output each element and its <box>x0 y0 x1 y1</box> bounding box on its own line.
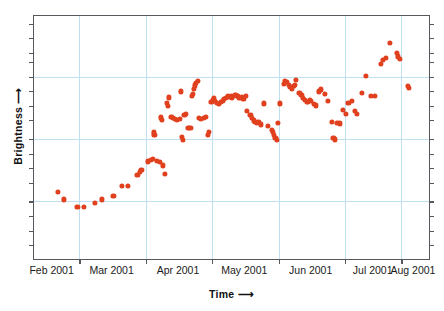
data-point <box>332 137 337 142</box>
y-axis-tick-right <box>429 24 434 25</box>
data-point <box>119 184 124 189</box>
x-axis-label: Time ⟶ <box>33 288 430 300</box>
gridline-vertical <box>401 16 402 259</box>
y-axis-tick <box>29 62 34 63</box>
data-point <box>125 183 130 188</box>
y-axis-tick-right <box>429 216 434 217</box>
x-axis-tick-label: Aug 2001 <box>391 264 436 276</box>
data-point <box>178 89 183 94</box>
data-point <box>276 120 281 125</box>
data-point <box>177 116 182 121</box>
data-point <box>81 204 86 209</box>
y-axis-tick-right <box>429 53 434 54</box>
data-point <box>294 77 299 82</box>
y-axis-tick <box>29 216 34 217</box>
gridline-vertical <box>146 16 147 259</box>
y-axis-tick <box>29 183 34 184</box>
y-axis-tick <box>29 120 34 121</box>
y-axis-tick <box>29 38 34 39</box>
x-axis-tick-label: Mar 2001 <box>89 264 133 276</box>
data-point <box>243 94 248 99</box>
data-point <box>293 82 298 87</box>
x-axis-tick-label: Feb 2001 <box>29 264 73 276</box>
data-point <box>159 117 164 122</box>
gridline-horizontal <box>34 77 429 78</box>
data-point <box>313 103 318 108</box>
x-axis-tick-label: Apr 2001 <box>157 264 200 276</box>
data-point <box>183 111 188 116</box>
data-point <box>160 163 165 168</box>
gridline-vertical <box>279 16 280 259</box>
x-axis-tick-label: May 2001 <box>221 264 267 276</box>
y-axis-tick <box>29 77 34 78</box>
data-point <box>349 98 354 103</box>
y-axis-tick-right <box>429 245 434 246</box>
y-axis-tick-right <box>429 183 434 184</box>
data-point <box>195 79 200 84</box>
y-axis-tick <box>29 231 34 232</box>
y-axis-tick <box>29 106 34 107</box>
y-axis-tick <box>29 245 34 246</box>
data-point <box>165 103 170 108</box>
x-axis-tick-labels: Feb 2001Mar 2001Apr 2001May 2001Jun 2001… <box>33 264 430 280</box>
data-point <box>343 111 348 116</box>
y-axis-arrow-icon: ⟶ <box>12 87 24 103</box>
y-axis-tick-right <box>429 154 434 155</box>
data-point <box>188 126 193 131</box>
y-axis-tick-right <box>429 77 434 78</box>
y-axis-tick-right <box>429 62 434 63</box>
data-point <box>322 91 327 96</box>
y-axis-tick-right <box>429 120 434 121</box>
gridline-horizontal <box>34 139 429 140</box>
data-point <box>359 90 364 95</box>
x-axis-tick-label: Jul 2001 <box>353 264 393 276</box>
data-point <box>55 190 60 195</box>
y-axis-tick-right <box>429 91 434 92</box>
data-point <box>111 193 116 198</box>
data-point <box>139 167 144 172</box>
y-axis-tick-right <box>429 168 434 169</box>
gridline-vertical <box>345 16 346 259</box>
y-axis-tick-right <box>429 106 434 107</box>
data-point <box>180 137 185 142</box>
data-point <box>206 130 211 135</box>
data-point <box>204 114 209 119</box>
data-point <box>337 121 342 126</box>
y-axis-tick <box>29 53 34 54</box>
data-point <box>373 94 378 99</box>
gridline-vertical <box>79 16 80 259</box>
y-axis-label: Brightness ⟶ <box>12 56 24 196</box>
data-point <box>152 132 157 137</box>
y-axis-tick-right <box>429 38 434 39</box>
y-axis-tick <box>29 24 34 25</box>
data-point <box>162 171 167 176</box>
data-point <box>325 98 330 103</box>
data-point <box>191 92 196 97</box>
x-axis-tick-label: Jun 2001 <box>289 264 332 276</box>
plot-frame <box>33 15 430 260</box>
plot-area <box>34 16 429 259</box>
data-point <box>387 40 392 45</box>
y-axis-tick <box>29 91 34 92</box>
y-axis-tick <box>29 168 34 169</box>
y-axis-label-text: Brightness <box>12 107 24 165</box>
y-axis-tick-right <box>429 139 434 140</box>
data-point <box>355 111 360 116</box>
y-axis-tick <box>29 154 34 155</box>
x-axis-arrow-icon: ⟶ <box>238 288 254 300</box>
x-axis-label-text: Time <box>209 288 235 300</box>
data-point <box>277 101 282 106</box>
data-point <box>93 200 98 205</box>
gridline-vertical <box>212 16 213 259</box>
data-point <box>166 95 171 100</box>
chart-figure: 3C 279 Feb 2001Mar 2001Apr 2001May 2001J… <box>0 0 444 311</box>
y-axis-tick <box>29 139 34 140</box>
y-axis-tick-right <box>429 201 434 202</box>
y-axis-tick <box>29 201 34 202</box>
data-point <box>406 85 411 90</box>
data-point <box>261 101 266 106</box>
data-point <box>259 122 264 127</box>
data-point <box>363 73 368 78</box>
y-axis-tick-right <box>429 231 434 232</box>
data-point <box>383 56 388 61</box>
